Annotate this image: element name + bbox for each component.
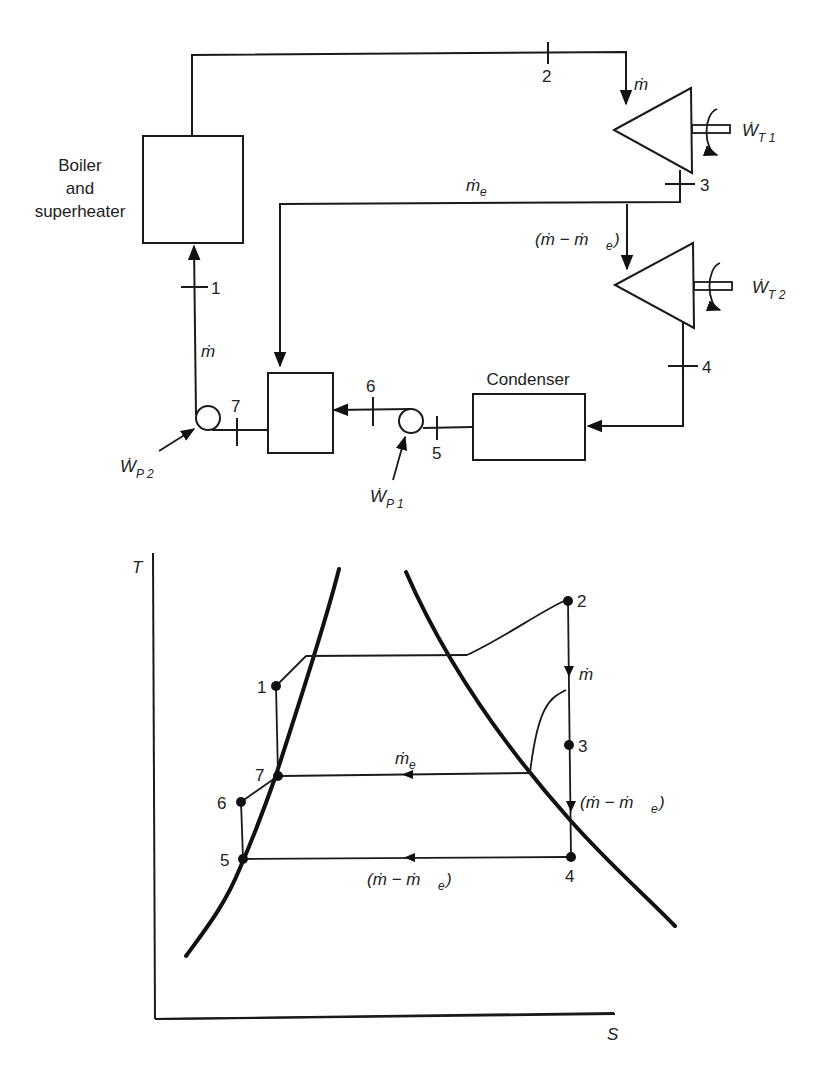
state-point-6 [236, 797, 246, 807]
point-label-2: 2 [577, 592, 586, 611]
m-minus-me-sub: e [606, 239, 613, 253]
boiler-label-2: and [66, 179, 94, 198]
isobar-high-superheat [467, 601, 564, 655]
y-axis-label: T [132, 558, 144, 577]
turbine-2-shaft [694, 282, 732, 290]
ts-m-minus-me-45-sub: e [438, 879, 445, 893]
state-3-label: 3 [700, 176, 709, 195]
condenser-box [473, 394, 585, 460]
pipe-p2-to-boiler [194, 246, 196, 415]
schematic: Boiler and superheater 2 ṁ Ẇ T 1 3 ṁ e (… [35, 42, 786, 511]
pipe-condenser-to-p1 [423, 427, 473, 428]
state-point-7 [273, 771, 283, 781]
ts-diagram: T S [132, 553, 675, 1044]
state-point-4 [566, 852, 576, 862]
arrow-2-3 [564, 666, 574, 677]
ts-m-minus-me-45-close: ) [444, 870, 452, 889]
pump-1 [399, 409, 423, 433]
state-point-1 [271, 681, 281, 691]
arrow-3-4 [566, 801, 576, 812]
state-point-5 [238, 854, 248, 864]
point-label-1: 1 [257, 678, 266, 697]
turbine-2-rotation-icon [710, 263, 721, 310]
m-minus-me-close: ) [612, 230, 620, 249]
isobar-mid-superheat [530, 690, 566, 773]
m-dot-e-sub: e [480, 185, 487, 199]
boiler-superheater-box [143, 136, 243, 243]
expansion-3-4 [569, 690, 571, 857]
ts-me-line: ṁ [395, 749, 409, 768]
w-p1-arrow [393, 437, 405, 480]
pump2-7-1 [276, 686, 278, 776]
turbine-1-shaft [692, 125, 730, 133]
state-1-label: 1 [211, 279, 220, 298]
open-feedwater-heater [268, 373, 333, 453]
state-point-2 [563, 596, 573, 606]
condenser-label: Condenser [486, 370, 570, 389]
m-dot-top: ṁ [634, 75, 648, 94]
pump1-5-6 [241, 802, 243, 858]
state-6-label: 6 [366, 377, 375, 396]
x-axis-label: S [607, 1025, 619, 1044]
w-p2-arrow [159, 429, 194, 451]
w-p1-sub: P 1 [386, 497, 404, 511]
m-dot-left: ṁ [201, 342, 215, 361]
boiler-label-1: Boiler [58, 156, 102, 175]
ts-m-minus-me-34: (ṁ − ṁ [580, 793, 633, 812]
ts-m-minus-me-45: (ṁ − ṁ [367, 870, 420, 889]
ts-m-minus-me-34-close: ) [657, 793, 665, 812]
state-4-label: 4 [702, 358, 711, 377]
w-t2-sub: T 2 [768, 288, 786, 302]
point-label-5: 5 [220, 851, 229, 870]
pipe-extraction [280, 170, 680, 366]
point-label-4: 4 [565, 867, 574, 886]
m-minus-me-label: (ṁ − ṁ [535, 230, 588, 249]
pipe-boiler-to-t1 [192, 52, 626, 136]
pipe-t2-to-condenser [588, 323, 683, 426]
turbine-1-rotation-icon [707, 109, 718, 155]
ts-m-minus-me-34-sub: e [651, 802, 658, 816]
ts-me-line-sub: e [409, 758, 416, 772]
isobar-1-liquid [276, 656, 306, 686]
state-point-3 [564, 740, 574, 750]
rankine-cycle-figure: Boiler and superheater 2 ṁ Ẇ T 1 3 ṁ e (… [0, 0, 831, 1068]
state-7-label: 7 [231, 397, 240, 416]
w-t1-sub: T 1 [758, 131, 775, 145]
state-2-label: 2 [542, 67, 551, 86]
point-label-7: 7 [255, 766, 264, 785]
point-label-3: 3 [578, 737, 587, 756]
state-5-label: 5 [432, 444, 441, 463]
pump-2 [196, 406, 220, 430]
ts-m-dot-23: ṁ [579, 665, 593, 684]
boiler-label-3: superheater [35, 202, 126, 221]
saturated-liquid-line [186, 569, 339, 956]
y-axis [153, 553, 155, 1019]
arrow-4-5 [404, 853, 415, 862]
isobar-high-evaporation [306, 655, 467, 656]
w-p2-sub: P 2 [136, 467, 154, 481]
m-dot-e-extraction: ṁ [466, 176, 480, 195]
point-label-6: 6 [217, 794, 226, 813]
